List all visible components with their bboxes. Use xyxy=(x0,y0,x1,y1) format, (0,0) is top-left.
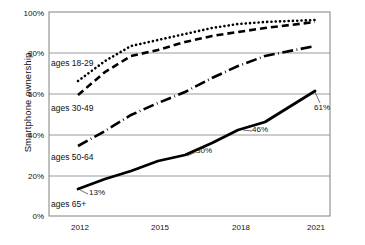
smartphone-ownership-chart: Smartphone ownership 100% 80% 60% 40% 20… xyxy=(0,0,365,245)
leader-13 xyxy=(80,190,88,194)
data-label-46: 46% xyxy=(252,125,268,134)
series-line-ages-50-64 xyxy=(78,46,315,146)
data-label-61: 61% xyxy=(314,103,330,112)
series-line-ages-65-plus xyxy=(78,91,315,189)
series-label-ages-18-29: ages 18-29 xyxy=(51,58,94,68)
series-label-ages-65-plus: ages 65+ xyxy=(51,199,86,209)
leader-46 xyxy=(243,130,252,131)
data-label-leaders xyxy=(80,92,320,194)
data-label-30: 30% xyxy=(196,146,212,155)
series-line-ages-30-49 xyxy=(78,22,315,95)
series-label-ages-30-49: ages 30-49 xyxy=(51,103,94,113)
data-label-13: 13% xyxy=(89,188,105,197)
series-label-ages-50-64: ages 50-64 xyxy=(51,152,94,162)
series-line-ages-18-29 xyxy=(78,20,315,81)
